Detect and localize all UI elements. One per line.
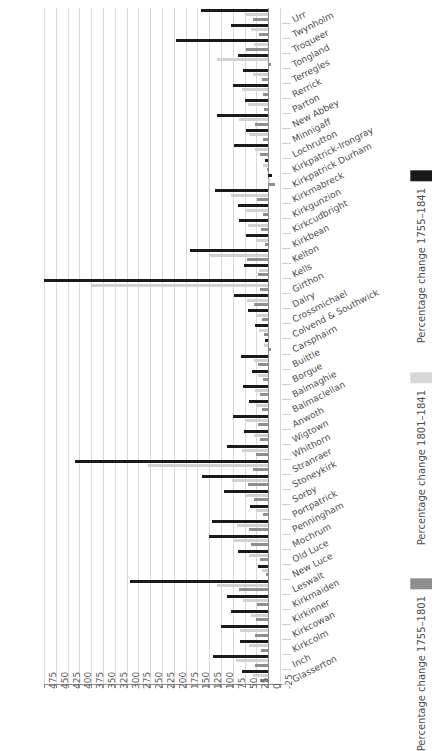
bar <box>215 189 268 192</box>
bar <box>260 438 268 441</box>
bar <box>249 528 268 531</box>
bar <box>246 234 268 237</box>
bar <box>249 554 268 557</box>
bar <box>240 640 268 643</box>
bar <box>263 93 269 96</box>
bar <box>238 204 268 207</box>
bar <box>258 273 268 276</box>
bar <box>254 303 269 306</box>
bar <box>265 159 268 162</box>
bar <box>240 629 268 632</box>
bar-group <box>44 188 280 203</box>
category-tick <box>282 399 291 400</box>
bar <box>234 144 268 147</box>
x-tick <box>150 684 151 688</box>
bar <box>260 288 268 291</box>
bar-group <box>44 624 280 639</box>
bar <box>227 445 269 448</box>
bar <box>254 43 269 46</box>
bar-group <box>44 23 280 38</box>
x-tick <box>91 684 92 688</box>
bar <box>257 198 268 201</box>
bar <box>231 24 268 27</box>
bar <box>265 243 268 246</box>
plot-area <box>44 8 280 684</box>
x-tick <box>115 684 116 688</box>
category-tick <box>282 684 291 685</box>
bar <box>248 483 268 486</box>
bar <box>254 498 268 501</box>
x-tick <box>268 684 269 688</box>
bar <box>239 219 268 222</box>
bar-group <box>44 474 280 489</box>
category-tick <box>282 534 291 535</box>
category-tick <box>282 444 291 445</box>
bar <box>243 69 268 72</box>
bar <box>248 309 268 312</box>
x-tick <box>127 684 128 688</box>
bar <box>130 580 268 583</box>
category-tick <box>282 23 291 24</box>
bar <box>255 634 268 637</box>
bar <box>201 9 268 12</box>
category-tick <box>282 143 291 144</box>
bar <box>263 513 268 516</box>
bar <box>248 224 268 227</box>
bar-group <box>44 399 280 414</box>
category-tick <box>282 504 291 505</box>
category-tick <box>282 609 291 610</box>
category-tick <box>282 429 291 430</box>
bar <box>217 58 268 61</box>
bar <box>247 299 268 302</box>
x-tick <box>256 684 257 688</box>
bar <box>263 213 269 216</box>
bar-group <box>44 609 280 624</box>
bar-group <box>44 654 280 669</box>
bar <box>255 389 269 392</box>
category-tick <box>282 654 291 655</box>
bar <box>258 363 268 366</box>
x-tick <box>221 684 222 688</box>
category-tick <box>282 624 291 625</box>
category-tick <box>282 579 291 580</box>
category-tick <box>282 594 291 595</box>
bar <box>253 73 269 76</box>
category-tick <box>282 53 291 54</box>
bar-group <box>44 579 280 594</box>
bar <box>176 39 268 42</box>
bar <box>233 84 268 87</box>
bar-group <box>44 128 280 143</box>
bar <box>255 324 268 327</box>
category-label: Urr <box>291 9 308 24</box>
category-tick <box>282 414 291 415</box>
bar-group <box>44 594 280 609</box>
bar <box>234 539 268 542</box>
x-tick <box>280 684 281 688</box>
category-tick <box>282 263 291 264</box>
bar <box>247 258 268 261</box>
bar <box>212 520 269 523</box>
bar <box>246 494 269 497</box>
category-tick <box>282 384 291 385</box>
bar-group <box>44 519 280 534</box>
category-tick <box>282 98 291 99</box>
bar <box>256 404 268 407</box>
bar-group <box>44 83 280 98</box>
bar-group <box>44 308 280 323</box>
legend-swatch-1801-1841 <box>410 372 432 383</box>
bar <box>256 618 268 621</box>
bar <box>202 475 268 478</box>
bar-group <box>44 444 280 459</box>
bar <box>243 385 268 388</box>
bar-group <box>44 338 280 353</box>
bar <box>256 314 268 317</box>
bar-group <box>44 534 280 549</box>
bar <box>44 279 268 282</box>
legend-swatch-1755-1841 <box>410 170 432 181</box>
bar <box>253 18 269 21</box>
bar <box>268 348 271 351</box>
bar-group <box>44 459 280 474</box>
category-tick <box>282 338 291 339</box>
category-tick <box>282 233 291 234</box>
